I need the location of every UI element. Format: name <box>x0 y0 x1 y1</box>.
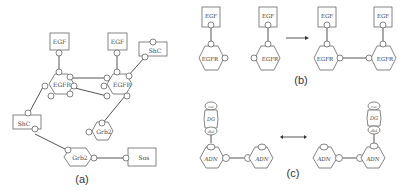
egfr-label: EGFR <box>262 56 279 62</box>
egf-label: EGF <box>53 38 66 45</box>
egf-label: EGF <box>111 38 124 45</box>
shc-label: ShC <box>149 47 162 54</box>
panel-c: cat DG dbd ADN ADN ADN ADN cat DG <box>200 102 385 179</box>
site-label: cat <box>371 105 377 109</box>
shc-label: ShC <box>18 120 31 127</box>
site-label: dbd <box>371 129 378 133</box>
egfr-label: EGFR <box>113 81 131 88</box>
egf-label: EGF <box>377 13 389 19</box>
egf-label: EGF <box>205 13 217 19</box>
dg-label: DG <box>206 116 215 122</box>
adn-label: ADN <box>254 156 268 162</box>
adn-label: ADN <box>203 156 217 162</box>
egf-label: EGF <box>321 13 333 19</box>
diagram-canvas: EGF EGF ShC EGFR EGFR ShC <box>0 0 404 194</box>
sos-label: Sos <box>139 154 150 161</box>
caption-c: (c) <box>287 167 300 179</box>
dg-label: DG <box>369 115 378 121</box>
egfr-label: EGFR <box>202 56 219 62</box>
adn-label: ADN <box>365 156 379 162</box>
arrow-right-icon <box>305 36 309 40</box>
site-label: cat <box>208 105 214 109</box>
egf-label: EGF <box>262 13 274 19</box>
panel-a: EGF EGF ShC EGFR EGFR ShC <box>13 33 167 185</box>
egfr-label: EGFR <box>377 56 394 62</box>
caption-b: (b) <box>294 74 307 86</box>
site-label: dbd <box>208 130 215 134</box>
adn-label: ADN <box>316 156 330 162</box>
panel-b: EGF EGFR EGF EGFR EGF EGFR EGF EGFR (b) <box>199 7 396 86</box>
caption-a: (a) <box>75 173 88 185</box>
egfr-label: EGFR <box>317 56 334 62</box>
egfr-label: EGFR <box>53 81 71 88</box>
arrow-right-icon <box>304 135 307 139</box>
grb2-label: Grb2 <box>72 154 88 161</box>
arrow-left-icon <box>280 135 283 139</box>
grb2-label: Grb2 <box>96 128 112 135</box>
